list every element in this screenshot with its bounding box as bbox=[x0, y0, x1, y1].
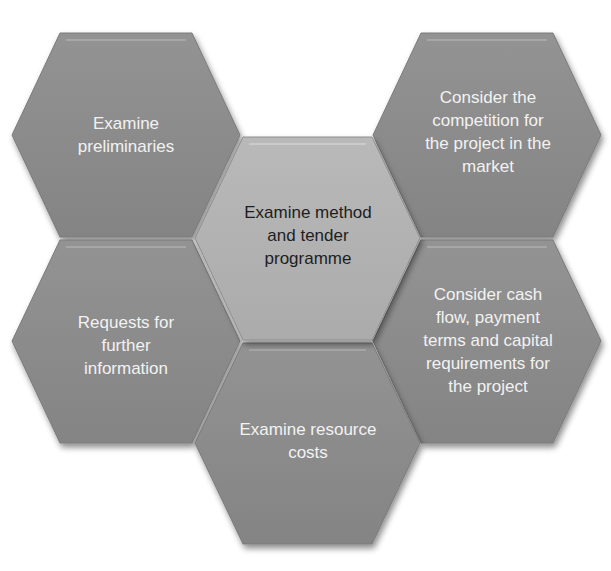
hexagon-label-center: Examine method and tender programme bbox=[217, 195, 399, 275]
hexagon-label-mid-right: Consider cash flow, payment terms and ca… bbox=[393, 280, 583, 400]
hexagon-label-top-right: Consider the competition for the project… bbox=[398, 82, 578, 182]
hexagon-diagram: Examine preliminaries Consider the compe… bbox=[0, 0, 611, 571]
hexagon-label-top-left: Examine preliminaries bbox=[40, 100, 212, 170]
hexagon-label-bottom-center: Examine resource costs bbox=[212, 412, 404, 470]
hexagon-label-mid-left: Requests for further information bbox=[40, 305, 212, 385]
